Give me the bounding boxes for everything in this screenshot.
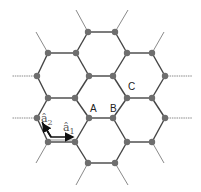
bond bbox=[152, 98, 165, 118]
bond bbox=[115, 32, 127, 53]
atom-node bbox=[45, 139, 51, 145]
atom-node bbox=[34, 115, 40, 121]
atom-node bbox=[124, 95, 130, 101]
atom-node bbox=[162, 115, 168, 121]
atom-node bbox=[149, 139, 155, 145]
vector-label-a1: â1 bbox=[63, 122, 75, 136]
atom-node bbox=[45, 50, 51, 56]
vector-label-a2: â2 bbox=[41, 113, 53, 127]
bond bbox=[37, 76, 48, 98]
atom-node bbox=[110, 73, 116, 79]
bond bbox=[37, 53, 48, 76]
bond bbox=[75, 98, 89, 118]
atom-node bbox=[112, 29, 118, 35]
dangling-bond bbox=[76, 163, 88, 185]
dangling-bond bbox=[152, 142, 164, 163]
dangling-bond bbox=[36, 32, 48, 53]
dangling-bond bbox=[36, 142, 48, 163]
bond bbox=[113, 76, 127, 98]
atom-node bbox=[86, 73, 92, 79]
atom-node bbox=[110, 115, 116, 121]
atom-node bbox=[45, 95, 51, 101]
bond bbox=[75, 76, 89, 98]
atom-node bbox=[72, 139, 78, 145]
dangling-bond bbox=[152, 32, 164, 53]
atom-node bbox=[124, 50, 130, 56]
site-label-c: C bbox=[128, 82, 135, 92]
site-label-b: B bbox=[110, 104, 117, 114]
site-label-a: A bbox=[90, 104, 97, 114]
atom-node bbox=[73, 50, 79, 56]
bond bbox=[76, 53, 89, 76]
atom-node bbox=[85, 29, 91, 35]
atom-node bbox=[86, 115, 92, 121]
bond bbox=[113, 53, 127, 76]
bond bbox=[152, 118, 165, 142]
atom-node bbox=[72, 95, 78, 101]
bond bbox=[113, 118, 127, 142]
honeycomb-diagram: ABCâ1â2 bbox=[0, 0, 201, 192]
dangling-bond bbox=[115, 10, 128, 32]
atom-node bbox=[112, 160, 118, 166]
atom-node bbox=[162, 73, 168, 79]
atom-node bbox=[149, 95, 155, 101]
dangling-bond bbox=[115, 163, 128, 185]
atom-node bbox=[85, 160, 91, 166]
bond bbox=[75, 118, 89, 142]
atom-node bbox=[34, 73, 40, 79]
bond bbox=[75, 142, 88, 163]
bond bbox=[152, 76, 165, 98]
bond bbox=[152, 53, 165, 76]
atom-node bbox=[124, 139, 130, 145]
bond bbox=[115, 142, 127, 163]
atom-node bbox=[149, 50, 155, 56]
lattice-svg bbox=[0, 0, 201, 192]
dangling-bond bbox=[76, 10, 88, 32]
bond bbox=[76, 32, 88, 53]
